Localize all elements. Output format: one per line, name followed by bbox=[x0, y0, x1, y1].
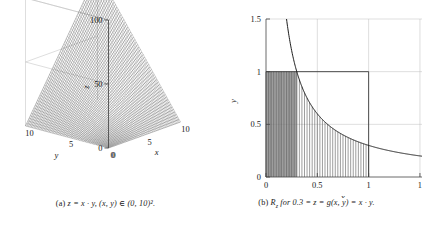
caption-a: (a) z = x · y, (x, y) ∈ (0, 10)². bbox=[0, 198, 211, 208]
caption-b-rest: for 0.3 = z = g(x, y) = x · y. bbox=[278, 198, 375, 207]
panel-a: 050100z0510y0510x (a) z = x · y, (x, y) … bbox=[0, 0, 211, 233]
surface-wireframe bbox=[26, 0, 181, 148]
caption-a-text: z = x · y, (x, y) ∈ (0, 10)². bbox=[68, 199, 156, 208]
svg-text:50: 50 bbox=[94, 80, 102, 89]
svg-text:0.5: 0.5 bbox=[251, 120, 261, 129]
svg-text:y: y bbox=[228, 99, 238, 104]
surface-plot-svg: 050100z0510y0510x bbox=[0, 0, 211, 198]
svg-text:10: 10 bbox=[25, 129, 33, 138]
axis-lines-ticks bbox=[105, 20, 109, 148]
plot-3d-surface: 050100z0510y0510x bbox=[0, 0, 211, 198]
svg-text:0: 0 bbox=[98, 144, 102, 153]
figure-container: 050100z0510y0510x (a) z = x · y, (x, y) … bbox=[0, 0, 422, 233]
svg-text:0: 0 bbox=[264, 181, 268, 190]
svg-text:1: 1 bbox=[257, 68, 261, 77]
svg-text:1: 1 bbox=[367, 181, 371, 190]
region-plot-svg: 00.511.5y00.511x bbox=[211, 0, 422, 198]
caption-b-label: (b) bbox=[258, 198, 268, 207]
caption-a-label: (a) bbox=[56, 199, 66, 208]
svg-text:y: y bbox=[53, 150, 58, 160]
svg-text:5: 5 bbox=[147, 138, 151, 147]
svg-text:1: 1 bbox=[418, 181, 422, 190]
svg-text:z: z bbox=[81, 85, 91, 90]
svg-text:5: 5 bbox=[69, 140, 73, 149]
panel-b: 00.511.5y00.511x (b) Rz for 0.3 = z = g(… bbox=[211, 0, 422, 233]
svg-text:0: 0 bbox=[257, 173, 261, 182]
svg-text:0: 0 bbox=[111, 151, 115, 160]
svg-text:x: x bbox=[154, 147, 159, 157]
svg-text:0.5: 0.5 bbox=[312, 181, 322, 190]
svg-text:100: 100 bbox=[90, 16, 103, 25]
caption-b: (b) Rz for 0.3 = z = g(x, y) = x · y. bbox=[211, 198, 422, 209]
svg-text:1.5: 1.5 bbox=[251, 15, 261, 24]
svg-text:10: 10 bbox=[181, 125, 189, 134]
plot-region-rz: 00.511.5y00.511x bbox=[211, 0, 422, 198]
